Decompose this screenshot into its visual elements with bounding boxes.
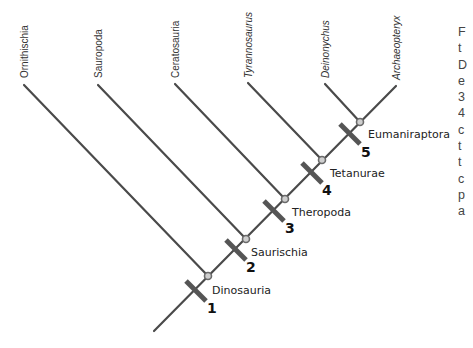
caption-line: 4 [458,105,473,121]
branch-sauropoda [98,85,246,239]
node-saurischia [243,236,250,243]
clade-label-dinosauria: Dinosauria [212,284,271,297]
synapomorphy-tick-4 [302,163,322,183]
caption-line: t [458,154,473,170]
branch-ornithischia [24,85,208,276]
caption-line: 3 [458,89,473,105]
clade-label-eumaniraptora: Eumaniraptora [368,128,450,141]
marker-number-4: 4 [322,182,332,198]
marker-number-3: 3 [285,220,295,236]
clade-label-tetanurae: Tetanurae [329,167,385,180]
clade-label-theropoda: Theropoda [291,206,351,219]
caption-line: p [458,187,473,203]
caption-line: D [458,57,473,73]
node-tetanurae [319,157,326,164]
branch-deinonychus [325,84,360,122]
synapomorphy-tick-2 [226,240,246,260]
taxon-label-sauropoda: Sauropoda [93,29,104,78]
caption-line: e [458,73,473,89]
marker-number-5: 5 [361,144,371,160]
taxon-label-deinonychus: Deinonychus [320,20,331,78]
node-eumaniraptora [357,119,364,126]
cropped-caption: F t D e 3 4 c t t c p a [458,24,473,220]
caption-line: c [458,171,473,187]
caption-line: c [458,122,473,138]
taxon-label-tyrannosaurus: Tyrannosaurus [243,12,254,78]
marker-number-1: 1 [207,300,217,316]
taxon-label-ornithischia: Ornithischia [19,25,30,78]
branch-tyrannosaurus [248,83,322,160]
taxon-label-archaeopteryx: Archaeopteryx [391,15,402,81]
synapomorphy-tick-1 [186,281,206,301]
caption-line: t [458,138,473,154]
node-dinosauria [205,273,212,280]
taxon-label-ceratosauria: Ceratosauria [170,20,181,78]
caption-line: F [458,24,473,40]
caption-line: a [458,203,473,219]
marker-number-2: 2 [246,259,256,275]
cladogram: Ornithischia Sauropoda Ceratosauria Tyra… [0,0,473,348]
clade-label-saurischia: Saurischia [251,246,308,259]
caption-line: t [458,40,473,56]
node-theropoda [282,196,289,203]
